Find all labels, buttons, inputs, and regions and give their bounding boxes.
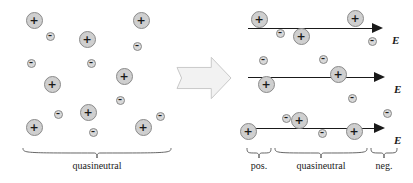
electron: – (116, 96, 125, 105)
plus-sign-icon: + (119, 71, 128, 82)
plus-sign-icon: + (29, 15, 38, 26)
electron: – (46, 32, 55, 41)
plus-sign-icon: + (136, 15, 145, 26)
minus-sign-icon: – (158, 112, 162, 120)
transition-arrow-icon (176, 56, 232, 100)
positive-ion: + (346, 123, 363, 140)
electron: – (89, 128, 98, 137)
minus-sign-icon: – (89, 59, 93, 67)
field-line-arrowhead (374, 123, 385, 133)
positive-ion: + (251, 11, 268, 28)
region-caption-2: neg. (358, 160, 410, 171)
positive-ion: + (291, 112, 308, 129)
minus-sign-icon: – (48, 32, 52, 40)
field-strength-label: E (392, 34, 399, 46)
electron: – (133, 42, 142, 51)
positive-ion: + (116, 68, 133, 85)
region-brace-0 (246, 148, 272, 159)
electron: – (348, 94, 357, 103)
field-line-arrowhead (374, 72, 385, 82)
left-panel-caption: quasineutral (22, 160, 172, 171)
electron: – (383, 109, 392, 118)
plus-sign-icon: + (29, 122, 38, 133)
field-strength-label: E (394, 83, 401, 95)
positive-ion: + (79, 31, 96, 48)
minus-sign-icon: – (135, 42, 139, 50)
plus-sign-icon: + (350, 13, 359, 24)
positive-ion: + (26, 119, 43, 136)
plus-sign-icon: + (349, 126, 358, 137)
region-brace-1 (274, 148, 368, 159)
minus-sign-icon: – (320, 129, 324, 137)
electron: – (276, 29, 285, 38)
plus-sign-icon: + (254, 14, 263, 25)
minus-sign-icon: – (29, 59, 33, 67)
minus-sign-icon: – (321, 55, 325, 63)
electron: – (54, 110, 63, 119)
electron: – (368, 37, 377, 46)
field-line (248, 28, 372, 29)
positive-ion: + (26, 12, 43, 29)
minus-sign-icon: – (370, 37, 374, 45)
positive-ion: + (293, 28, 310, 45)
electron: – (87, 59, 96, 68)
plus-sign-icon: + (83, 107, 92, 118)
positive-ion: + (258, 76, 275, 93)
positive-ion: + (330, 66, 347, 83)
plus-sign-icon: + (333, 69, 342, 80)
positive-ion: + (44, 76, 61, 93)
minus-sign-icon: – (56, 110, 60, 118)
minus-sign-icon: – (278, 29, 282, 37)
electron: – (282, 114, 291, 123)
electron: – (259, 56, 268, 65)
electron: – (319, 55, 328, 64)
minus-sign-icon: – (385, 109, 389, 117)
field-strength-label: E (394, 134, 401, 146)
plus-sign-icon: + (243, 126, 252, 137)
positive-ion: + (347, 10, 364, 27)
minus-sign-icon: – (261, 56, 265, 64)
positive-ion: + (80, 104, 97, 121)
electron: – (318, 129, 327, 138)
plus-sign-icon: + (82, 34, 91, 45)
plus-sign-icon: + (294, 115, 303, 126)
positive-ion: + (240, 123, 257, 140)
positive-ion: + (133, 12, 150, 29)
field-line-arrowhead (372, 23, 383, 33)
electron: – (27, 59, 36, 68)
plasma-sheath-figure: ++++++++––––––––quasineutralE+++––E++–––… (0, 0, 413, 183)
region-brace-2 (370, 148, 398, 159)
plus-sign-icon: + (296, 31, 305, 42)
positive-ion: + (135, 119, 152, 136)
plus-sign-icon: + (47, 79, 56, 90)
left-panel-brace (22, 148, 172, 159)
electron: – (156, 112, 165, 121)
minus-sign-icon: – (284, 114, 288, 122)
plus-sign-icon: + (138, 122, 147, 133)
minus-sign-icon: – (118, 96, 122, 104)
minus-sign-icon: – (91, 128, 95, 136)
minus-sign-icon: – (350, 94, 354, 102)
plus-sign-icon: + (261, 79, 270, 90)
